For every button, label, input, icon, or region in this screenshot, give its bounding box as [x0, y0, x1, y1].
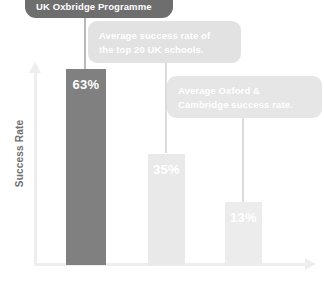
callout-connector-0	[84, 16, 86, 70]
callout-text-0-line1: UK Oxbridge Programme	[36, 0, 162, 14]
callout-box-0: UK Oxbridge Programme	[25, 0, 173, 18]
callout-box-2: Average Oxford & Cambridge success rate.	[167, 76, 322, 118]
y-axis-title: Success Rate	[14, 109, 25, 199]
y-axis-line	[34, 72, 37, 265]
bar-value-label-1: 35%	[148, 162, 185, 177]
bar-chart: Success Rate 63% 35% 13% UK Oxbridge Pro…	[0, 0, 324, 283]
callout-text-1-line2: the top 20 UK schools.	[99, 43, 230, 57]
bar-value-label-0: 63%	[66, 77, 106, 92]
callout-text-1-line1: Average success rate of	[99, 29, 230, 43]
bar-0: 63%	[66, 69, 106, 265]
bar-value-label-2: 13%	[225, 210, 262, 225]
arrow-right-icon	[305, 258, 316, 270]
bar-2: 13%	[225, 202, 262, 265]
bar-1: 35%	[148, 154, 185, 265]
callout-text-2-line2: Cambridge success rate.	[178, 98, 311, 112]
callout-box-1: Average success rate of the top 20 UK sc…	[88, 21, 241, 63]
callout-text-2-line1: Average Oxford &	[178, 84, 311, 98]
